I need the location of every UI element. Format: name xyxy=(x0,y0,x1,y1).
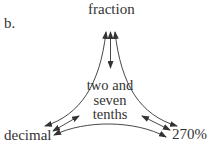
node-words-line-2: seven xyxy=(82,93,138,108)
node-decimal: decimal xyxy=(4,128,51,143)
node-fraction: fraction xyxy=(88,2,135,17)
arrow-percent-center xyxy=(142,116,170,130)
node-words-line-1: two and xyxy=(82,78,138,93)
arrow-decimal-center xyxy=(53,116,79,131)
arrow-decimal-percent xyxy=(54,124,166,137)
node-percent: 270% xyxy=(172,127,207,142)
node-words-line-3: tenths xyxy=(82,107,138,122)
subfigure-label: b. xyxy=(4,16,15,31)
node-words: two and seven tenths xyxy=(82,78,138,122)
